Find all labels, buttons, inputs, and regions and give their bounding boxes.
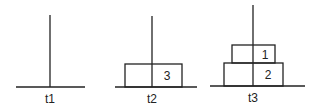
tower-t3-label: t3 — [248, 91, 258, 105]
towers-diagram: t1 3 t2 1 2 t3 — [0, 0, 315, 111]
tower-t2: 3 t2 — [115, 16, 197, 106]
disk-3-label: 3 — [164, 69, 171, 83]
disk-3 — [125, 64, 182, 87]
disk-2-label: 2 — [265, 68, 272, 82]
disk-1-label: 1 — [262, 48, 269, 62]
tower-t1: t1 — [16, 15, 85, 106]
tower-t2-label: t2 — [147, 92, 157, 106]
tower-t1-label: t1 — [45, 92, 55, 106]
tower-t3: 1 2 t3 — [210, 5, 305, 105]
